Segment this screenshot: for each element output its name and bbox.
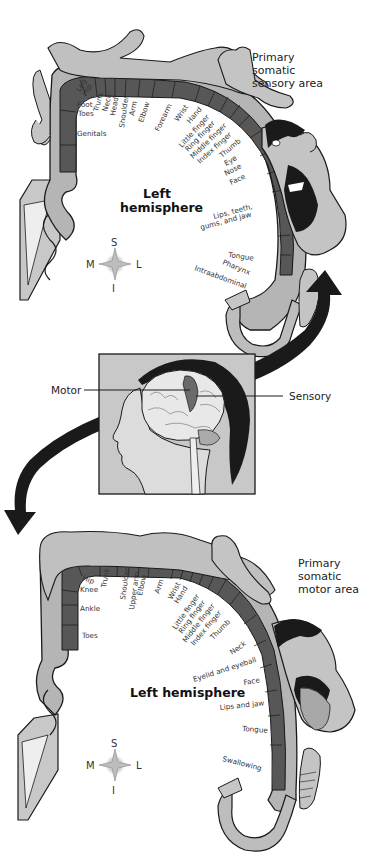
label-toes: Toes	[81, 631, 98, 640]
svg-text:I: I	[112, 785, 115, 796]
sensory-hemisphere-label: Left hemisphere	[120, 186, 203, 215]
label-toes: Toes	[77, 109, 94, 118]
label-face: Face	[243, 675, 261, 687]
sensory-title: Primary somatic sensory area	[252, 51, 323, 90]
svg-text:S: S	[111, 237, 117, 248]
label-lips-and-jaw: Lips and jaw	[219, 698, 264, 712]
sensory-pointer-label: Sensory	[289, 390, 331, 402]
label-forearm: Forearm	[153, 102, 174, 133]
label-knee: Knee	[80, 585, 99, 594]
compass-icon-top: S I M L	[86, 237, 142, 294]
brain-illustration-box	[84, 354, 283, 494]
svg-text:hemisphere: hemisphere	[120, 200, 203, 215]
svg-text:M: M	[86, 760, 95, 771]
label-foot: Foot	[77, 100, 93, 109]
motor-pointer-label: Motor	[51, 384, 82, 396]
svg-text:I: I	[112, 283, 115, 294]
label-neck: Neck	[228, 639, 249, 657]
svg-text:L: L	[136, 760, 142, 771]
svg-text:Primary: Primary	[298, 557, 341, 570]
label-arm: Arm	[152, 578, 165, 595]
svg-text:somatic: somatic	[252, 64, 295, 77]
homunculus-diagram: Leg Hip Foot Trunk Neck Head Shoulder Ar…	[0, 0, 381, 867]
label-arm: Arm	[127, 100, 139, 116]
svg-text:M: M	[86, 259, 95, 270]
label-genitals: Genitals	[77, 129, 107, 138]
svg-text:motor area: motor area	[298, 583, 359, 596]
label-ankle: Ankle	[80, 604, 101, 613]
motor-title: Primary somatic motor area	[298, 557, 359, 596]
label-tongue: Tongue	[241, 724, 269, 735]
label-elbow: Elbow	[136, 100, 151, 123]
svg-text:sensory area: sensory area	[252, 77, 323, 90]
svg-text:Left: Left	[143, 186, 171, 201]
svg-text:S: S	[111, 738, 117, 749]
svg-text:L: L	[136, 259, 142, 270]
svg-text:somatic: somatic	[298, 570, 341, 583]
label-swallowing: Swallowing	[222, 754, 263, 772]
motor-hemisphere-label: Left hemisphere	[130, 685, 245, 700]
svg-text:Primary: Primary	[252, 51, 295, 64]
compass-icon-bottom: S I M L	[86, 738, 142, 796]
